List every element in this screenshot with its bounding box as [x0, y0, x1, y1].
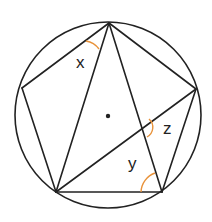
angle-label-x: x [76, 53, 85, 72]
angle-arc-z [147, 119, 153, 137]
angle-arc-y [141, 173, 155, 192]
diagram-canvas: x z y [0, 0, 212, 222]
angle-label-z: z [163, 119, 172, 138]
segment-BL-R [56, 89, 196, 192]
segment-BR-R [162, 89, 196, 192]
geometry-diagram: x z y [0, 0, 212, 222]
segment-T-BL [56, 23, 109, 192]
angle-label-y: y [128, 154, 137, 173]
segments-group [22, 23, 196, 192]
angle-arc-x [86, 41, 99, 49]
center-point [106, 114, 110, 118]
